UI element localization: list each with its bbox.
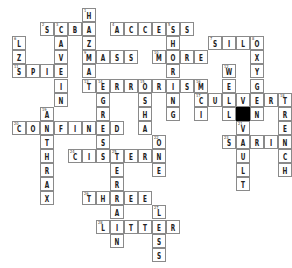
grid-cell[interactable]: R — [138, 149, 152, 163]
grid-cell[interactable]: C — [124, 22, 138, 36]
grid-cell[interactable]: A — [40, 177, 54, 191]
grid-cell[interactable]: S — [152, 248, 166, 262]
grid-cell[interactable]: A — [82, 22, 96, 36]
grid-cell[interactable]: N — [54, 93, 68, 107]
grid-cell[interactable]: 7S — [208, 36, 222, 50]
grid-cell[interactable]: 9M — [82, 50, 96, 64]
grid-cell[interactable]: V — [54, 50, 68, 64]
grid-cell[interactable]: L — [236, 163, 250, 177]
grid-cell[interactable]: R — [40, 163, 54, 177]
grid-cell[interactable]: 5S — [166, 22, 180, 36]
grid-cell[interactable]: 4A — [110, 22, 124, 36]
grid-cell[interactable]: 16M — [194, 79, 208, 93]
grid-cell[interactable]: R — [96, 107, 110, 121]
grid-cell[interactable]: E — [278, 121, 292, 135]
grid-cell[interactable]: X — [250, 50, 264, 64]
grid-cell[interactable]: 1H — [82, 8, 96, 22]
grid-cell[interactable]: C — [278, 149, 292, 163]
grid-cell[interactable]: E — [54, 64, 68, 78]
grid-cell[interactable]: G — [250, 79, 264, 93]
grid-cell[interactable]: U — [208, 93, 222, 107]
grid-cell[interactable]: 21V — [236, 121, 250, 135]
grid-cell[interactable]: O — [26, 121, 40, 135]
grid-cell[interactable]: S — [180, 79, 194, 93]
grid-cell[interactable]: S — [96, 149, 110, 163]
grid-cell[interactable]: S — [180, 22, 194, 36]
grid-cell[interactable]: 8O — [250, 36, 264, 50]
grid-cell[interactable]: V — [236, 93, 250, 107]
grid-cell[interactable]: 18T — [278, 93, 292, 107]
grid-cell[interactable]: E — [96, 121, 110, 135]
grid-cell[interactable]: 14E — [96, 79, 110, 93]
grid-cell[interactable]: Y — [250, 64, 264, 78]
grid-cell[interactable]: E — [152, 163, 166, 177]
grid-cell[interactable]: G — [166, 107, 180, 121]
grid-cell[interactable]: 15O — [138, 79, 152, 93]
grid-cell[interactable]: 3C — [54, 22, 68, 36]
grid-cell[interactable]: O — [166, 50, 180, 64]
grid-cell[interactable]: T — [138, 220, 152, 234]
grid-cell[interactable]: B — [68, 22, 82, 36]
grid-cell[interactable]: R — [110, 177, 124, 191]
grid-cell[interactable]: A — [138, 121, 152, 135]
grid-cell[interactable]: R — [250, 135, 264, 149]
grid-cell[interactable]: I — [68, 121, 82, 135]
grid-cell[interactable]: N — [166, 93, 180, 107]
grid-cell[interactable]: A — [236, 135, 250, 149]
grid-cell[interactable]: R — [110, 79, 124, 93]
grid-cell[interactable]: I — [82, 149, 96, 163]
grid-cell[interactable]: R — [166, 64, 180, 78]
grid-cell[interactable]: I — [40, 64, 54, 78]
grid-cell[interactable]: 20C — [12, 121, 26, 135]
grid-cell[interactable]: G — [96, 93, 110, 107]
grid-cell[interactable]: A — [110, 205, 124, 219]
grid-cell[interactable]: 22O — [152, 135, 166, 149]
grid-cell[interactable]: N — [152, 149, 166, 163]
grid-cell[interactable]: 12W — [222, 64, 236, 78]
grid-cell[interactable]: L — [222, 93, 236, 107]
grid-cell[interactable]: H — [166, 36, 180, 50]
grid-cell[interactable]: 2S — [40, 22, 54, 36]
grid-cell[interactable]: N — [278, 135, 292, 149]
grid-cell[interactable]: F — [54, 121, 68, 135]
grid-cell[interactable]: N — [110, 234, 124, 248]
grid-cell[interactable]: I — [264, 135, 278, 149]
grid-cell[interactable]: E — [194, 50, 208, 64]
grid-cell[interactable]: S — [152, 234, 166, 248]
grid-cell[interactable]: E — [250, 93, 264, 107]
grid-cell[interactable]: N — [40, 121, 54, 135]
grid-cell[interactable]: R — [124, 79, 138, 93]
grid-cell[interactable]: S — [96, 135, 110, 149]
grid-cell[interactable]: 26T — [82, 191, 96, 205]
grid-cell[interactable]: H — [96, 191, 110, 205]
grid-cell[interactable]: 19A — [40, 107, 54, 121]
grid-cell[interactable]: X — [40, 191, 54, 205]
grid-cell[interactable]: R — [180, 50, 194, 64]
grid-cell[interactable]: A — [82, 64, 96, 78]
grid-cell[interactable]: S — [110, 50, 124, 64]
grid-cell[interactable]: 6L — [12, 36, 26, 50]
grid-cell[interactable]: T — [236, 177, 250, 191]
grid-cell[interactable]: Z — [82, 36, 96, 50]
grid-cell[interactable]: 17C — [194, 93, 208, 107]
grid-cell[interactable]: 11S — [12, 64, 26, 78]
grid-cell[interactable]: T — [40, 135, 54, 149]
grid-cell[interactable]: E — [152, 220, 166, 234]
grid-cell[interactable]: L — [236, 36, 250, 50]
grid-cell[interactable]: R — [166, 220, 180, 234]
grid-cell[interactable]: R — [152, 79, 166, 93]
grid-cell[interactable]: U — [236, 149, 250, 163]
grid-cell[interactable]: P — [26, 64, 40, 78]
grid-cell[interactable]: H — [40, 149, 54, 163]
grid-cell[interactable]: S — [138, 93, 152, 107]
grid-cell[interactable]: 28L — [96, 220, 110, 234]
grid-cell[interactable]: I — [166, 79, 180, 93]
grid-cell[interactable]: E — [152, 22, 166, 36]
grid-cell[interactable]: L — [222, 107, 236, 121]
grid-cell[interactable]: E — [138, 191, 152, 205]
grid-cell[interactable]: H — [278, 163, 292, 177]
grid-cell[interactable]: N — [82, 121, 96, 135]
grid-cell[interactable]: C — [138, 22, 152, 36]
grid-cell[interactable]: E — [222, 79, 236, 93]
grid-cell[interactable]: R — [110, 191, 124, 205]
